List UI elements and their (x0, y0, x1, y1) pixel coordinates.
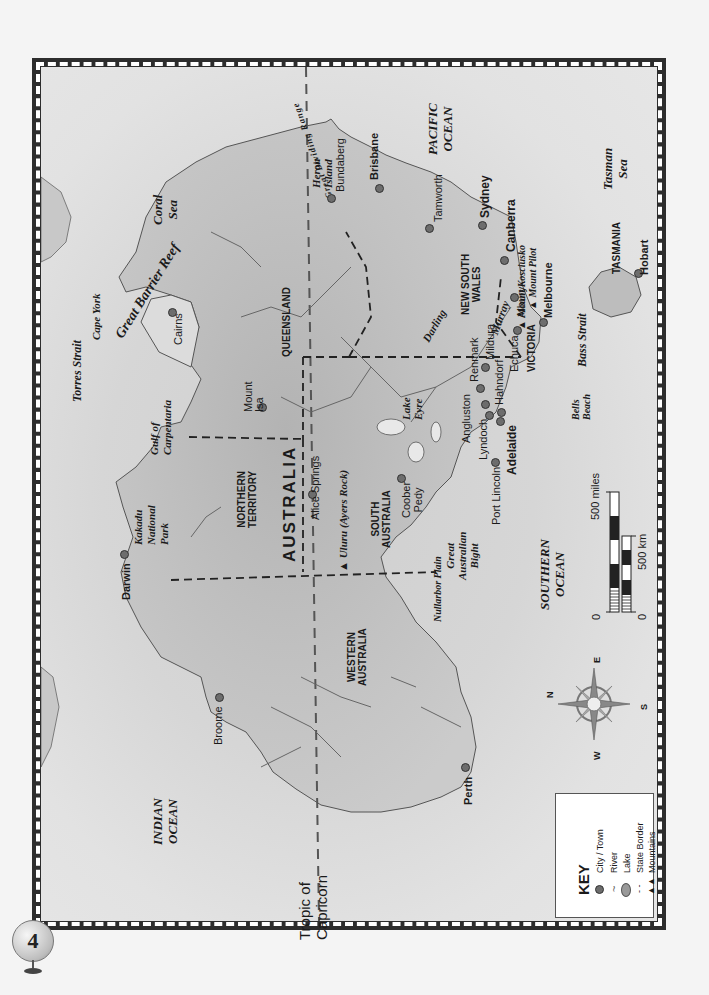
compass-e: E (592, 657, 602, 663)
state-label-qld: QUEENSLAND (281, 287, 292, 357)
state-label-nt: NORTHERN TERRITORY (236, 471, 258, 528)
sea-label-coral: Coral Sea (150, 195, 180, 225)
key-item-state-border: State Border (635, 822, 645, 873)
label-line: TERRITORY (247, 471, 258, 528)
city-label-melbourne[interactable]: Melbourne (542, 262, 554, 318)
city-label-hahndorf[interactable]: Hahndorf (493, 360, 505, 405)
city-label-cairns[interactable]: Cairns (172, 313, 184, 345)
city-label-angluston[interactable]: Angluston (460, 394, 472, 443)
city-dot-perth[interactable] (461, 763, 470, 772)
city-dot-sydney[interactable] (478, 221, 487, 230)
label-line: OCEAN (440, 103, 455, 155)
label-line: Australian (456, 532, 468, 580)
city-label-renmark[interactable]: Renmark (468, 337, 480, 382)
city-label-lyndoch[interactable]: Lyndoch (477, 419, 489, 460)
city-label-albury[interactable]: Albury (515, 287, 527, 318)
globe-stand-icon (22, 960, 44, 974)
city-dot-canberra[interactable] (500, 256, 509, 265)
city-dot-broome[interactable] (215, 693, 224, 702)
label-line: Carpentaria (161, 400, 174, 455)
city-dot-tamworth[interactable] (425, 224, 434, 233)
city-dot-mildura[interactable] (481, 363, 490, 372)
compass-rose (552, 662, 636, 746)
state-label-nsw: NEW SOUTH WALES (460, 254, 482, 315)
key-city-icon (595, 885, 604, 894)
city-label-tamworth[interactable]: Tamworth (432, 174, 444, 222)
city-dot-bundaberg[interactable] (327, 194, 336, 203)
city-dot-angluston[interactable] (481, 400, 490, 409)
label-line: Coral (150, 195, 165, 225)
label-line: Great (444, 532, 456, 580)
gulf-label-carpentaria: Gulf of Carpentaria (148, 400, 174, 455)
scale-km-max: 500 km (636, 534, 648, 570)
state-label-sa: SOUTH AUSTRALIA (370, 490, 392, 548)
label-line: NORTHERN (236, 471, 247, 528)
label-line: Gulf of (148, 400, 161, 455)
label-line: WESTERN (346, 628, 357, 686)
label-line: Beach (581, 394, 592, 420)
compass-rose-icon (552, 662, 636, 746)
city-dot-brisbane[interactable] (375, 184, 384, 193)
city-label-brisbane[interactable]: Brisbane (368, 133, 380, 180)
city-label-alice-springs[interactable]: Alice Springs (309, 456, 321, 520)
state-label-tas: TASMANIA (611, 222, 622, 274)
city-label-mildura[interactable]: Mildura (484, 324, 496, 360)
city-label-port-lincoln[interactable]: Port Lincoln (490, 467, 502, 525)
label-line: Tasman (600, 148, 615, 190)
city-dot-port-lincoln[interactable] (491, 458, 500, 467)
label-line: OCEAN (165, 798, 180, 845)
city-label-echuca[interactable]: Echuca (508, 335, 520, 372)
compass-s: S (639, 704, 649, 710)
ocean-label-pacific: PACIFIC OCEAN (425, 103, 455, 155)
city-dot-echuca[interactable] (513, 326, 522, 335)
city-dot-darwin[interactable] (120, 550, 129, 559)
state-label-wa: WESTERN AUSTRALIA (346, 628, 368, 686)
city-label-adelaide[interactable]: Adelaide (505, 425, 519, 475)
city-label-broome[interactable]: Broome (212, 706, 224, 745)
city-label-perth[interactable]: Perth (462, 777, 474, 805)
label-line: Sea (165, 195, 180, 225)
label-line: Park (158, 505, 171, 545)
city-dot-renmark[interactable] (476, 384, 485, 393)
label-line: SOUTH (370, 490, 381, 548)
city-label-coober-pedy[interactable]: Coober Pedy (400, 482, 424, 518)
city-label-bundaberg[interactable]: Bundaberg (334, 138, 346, 192)
key-border-icon: - - (634, 885, 644, 894)
scale-miles-zero: 0 (590, 614, 602, 620)
key-item-mountains: Mountains (647, 831, 657, 873)
bight-label: Great Australian Bight (444, 532, 480, 580)
feature-label-kakadu: Kakadu National Park (132, 505, 171, 545)
compass-w: W (592, 752, 602, 761)
sea-label-tasman: Tasman Sea (600, 148, 630, 190)
label-line: National (145, 505, 158, 545)
city-dot-adelaide[interactable] (496, 417, 505, 426)
city-label-mount-isa[interactable]: Mount Isa (243, 381, 265, 412)
page-number-globe: 4 (12, 920, 54, 962)
city-label-canberra[interactable]: Canberra (504, 199, 518, 252)
feature-label-cape-york: Cape York (90, 293, 102, 340)
label-line: AUSTRALIA (381, 490, 392, 548)
ocean-label-indian: INDIAN OCEAN (150, 798, 180, 845)
key-title: KEY (575, 864, 592, 895)
label-line: Uluru (Ayers Rock) (337, 470, 349, 558)
label-line: Tropic of (296, 875, 313, 940)
key-item-lake: Lake (622, 853, 632, 873)
label-line: Eyre (412, 397, 424, 420)
label-line: Sea (615, 148, 630, 190)
ocean-label-southern: SOUTHERN OCEAN (537, 539, 567, 610)
city-label-darwin[interactable]: Darwin (120, 563, 132, 600)
label-line: Kakadu (132, 505, 145, 545)
key-item-city: City / Town (595, 829, 605, 873)
label-line: Mount Pilot (527, 248, 538, 298)
city-label-sydney[interactable]: Sydney (478, 175, 492, 218)
city-label-hobart[interactable]: Hobart (638, 240, 650, 275)
label-line: AUSTRALIA (357, 628, 368, 686)
key-mountains-icon: ▲▲ (646, 877, 656, 895)
city-dot-hahndorf[interactable] (497, 408, 506, 417)
label-line: SOUTHERN (537, 539, 552, 610)
label-line: Pedy (412, 482, 424, 518)
key-lake-icon (621, 883, 631, 897)
strait-label-bass: Bass Strait (575, 313, 590, 367)
city-dot-melbourne[interactable] (539, 318, 548, 327)
country-label-australia: AUSTRALIA (280, 446, 300, 562)
